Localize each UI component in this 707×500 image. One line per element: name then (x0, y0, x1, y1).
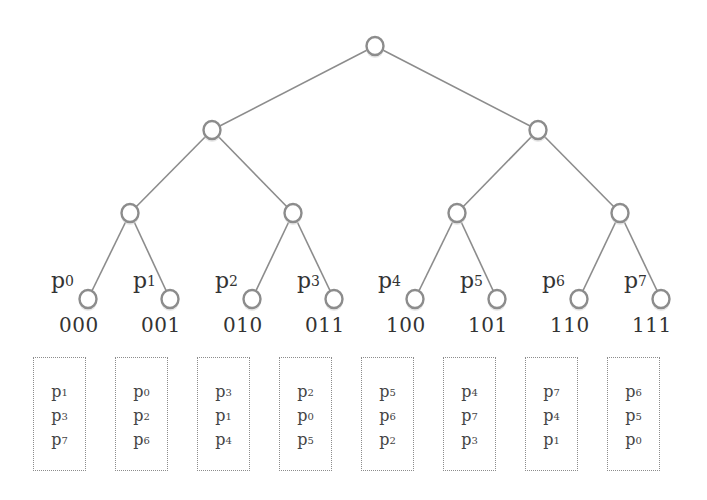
bucket-item: p4 (444, 380, 495, 404)
leaf-binary-code: 110 (550, 315, 590, 335)
bucket-item: p6 (362, 404, 413, 428)
bucket-item: p2 (362, 428, 413, 452)
tree-edge (212, 46, 375, 130)
bucket-box: p7p4p1 (525, 357, 578, 471)
bucket-item: p3 (34, 404, 85, 428)
leaf-name-label: p0 (51, 270, 74, 292)
bucket-box: p0p2p6 (115, 357, 168, 471)
bucket-item: p1 (34, 380, 85, 404)
bucket-item: p5 (280, 428, 331, 452)
bucket-list: p6p5p0 (608, 380, 659, 452)
leaf-name-label: p2 (215, 270, 238, 292)
tree-edge (130, 130, 212, 213)
leaf-binary-code: 101 (468, 315, 508, 335)
bucket-item: p0 (280, 404, 331, 428)
tree-edges (88, 46, 661, 299)
bucket-item: p5 (362, 380, 413, 404)
tree-edge (212, 130, 293, 213)
bucket-box: p2p0p5 (279, 357, 332, 471)
bucket-list: p7p4p1 (526, 380, 577, 452)
leaf-binary-code: 001 (141, 315, 181, 335)
leaf-name-label: p4 (378, 270, 401, 292)
leaf-node (80, 290, 97, 308)
leaf-binary-code: 100 (386, 315, 426, 335)
bucket-box: p6p5p0 (607, 357, 660, 471)
leaf-binary-code: 000 (59, 315, 99, 335)
leaf-node (162, 290, 179, 308)
tree-edge (252, 213, 293, 299)
leaf-name-label: p5 (460, 270, 483, 292)
internal-node (530, 121, 547, 139)
bucket-item: p2 (116, 404, 167, 428)
leaf-binary-code: 111 (632, 315, 672, 335)
bucket-list: p4p7p3 (444, 380, 495, 452)
tree-edge (88, 213, 130, 299)
leaf-node (489, 290, 506, 308)
bucket-list: p5p6p2 (362, 380, 413, 452)
leaf-name-label: p1 (133, 270, 156, 292)
bucket-box: p1p3p7 (33, 357, 86, 471)
internal-node (122, 204, 139, 222)
bucket-item: p2 (280, 380, 331, 404)
bucket-box: p5p6p2 (361, 357, 414, 471)
internal-node (285, 204, 302, 222)
leaf-name-label: p7 (624, 270, 647, 292)
bucket-list: p2p0p5 (280, 380, 331, 452)
bucket-box: p4p7p3 (443, 357, 496, 471)
bucket-item: p7 (526, 380, 577, 404)
root-node (367, 37, 384, 55)
bucket-item: p3 (444, 428, 495, 452)
tree-edge (457, 130, 538, 213)
leaf-binary-code: 010 (223, 315, 263, 335)
internal-node (204, 121, 221, 139)
leaf-node (653, 290, 670, 308)
tree-edge (538, 130, 620, 213)
bucket-item: p1 (198, 404, 249, 428)
tree-edge (415, 213, 457, 299)
bucket-item: p5 (608, 404, 659, 428)
bucket-item: p0 (608, 428, 659, 452)
internal-node (449, 204, 466, 222)
bucket-item: p7 (444, 404, 495, 428)
bucket-list: p0p2p6 (116, 380, 167, 452)
leaf-binary-code: 011 (305, 315, 345, 335)
tree-edge (375, 46, 538, 130)
leaf-name-label: p6 (542, 270, 565, 292)
leaf-node (571, 290, 588, 308)
bucket-list: p3p1p4 (198, 380, 249, 452)
bucket-item: p7 (34, 428, 85, 452)
tree-edge (579, 213, 620, 299)
bucket-item: p6 (116, 428, 167, 452)
bucket-item: p1 (526, 428, 577, 452)
bucket-item: p4 (526, 404, 577, 428)
leaf-node (407, 290, 424, 308)
bucket-item: p0 (116, 380, 167, 404)
leaf-name-label: p3 (297, 270, 320, 292)
bucket-box: p3p1p4 (197, 357, 250, 471)
internal-node (612, 204, 629, 222)
bucket-item: p6 (608, 380, 659, 404)
bucket-list: p1p3p7 (34, 380, 85, 452)
binary-tree-diagram (0, 0, 707, 500)
bucket-item: p4 (198, 428, 249, 452)
leaf-node (326, 290, 343, 308)
bucket-item: p3 (198, 380, 249, 404)
leaf-node (244, 290, 261, 308)
